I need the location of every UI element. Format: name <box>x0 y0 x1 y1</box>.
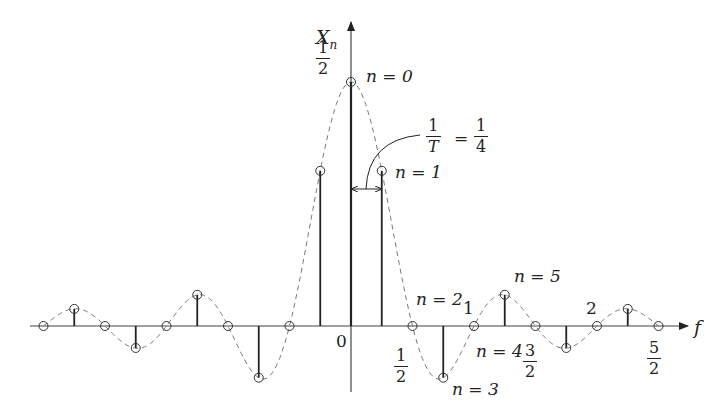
tick-three-halves: 3 2 <box>523 343 537 380</box>
n3-label: n = 3 <box>452 381 499 398</box>
n4-label: n = 4 <box>476 343 523 360</box>
tick-half: 1 2 <box>394 348 408 385</box>
tick-two: 2 <box>586 300 597 317</box>
n5-label: n = 5 <box>514 268 561 285</box>
origin-label: 0 <box>336 333 347 350</box>
y-axis-subscript: n <box>330 38 338 52</box>
peak-value-label: 1 2 <box>316 40 330 77</box>
n2-label: n = 2 <box>416 291 463 308</box>
tick-five-halves: 5 2 <box>647 340 661 377</box>
spacing-equals: = <box>454 130 468 147</box>
spacing-rhs: 1 4 <box>474 118 488 155</box>
x-axis-label: f <box>694 318 701 337</box>
tick-one: 1 <box>463 300 474 317</box>
spacing-lhs: 1 T <box>426 118 441 155</box>
n1-label: n = 1 <box>395 164 442 181</box>
n0-label: n = 0 <box>366 68 413 85</box>
spectrum-plot <box>0 0 726 417</box>
